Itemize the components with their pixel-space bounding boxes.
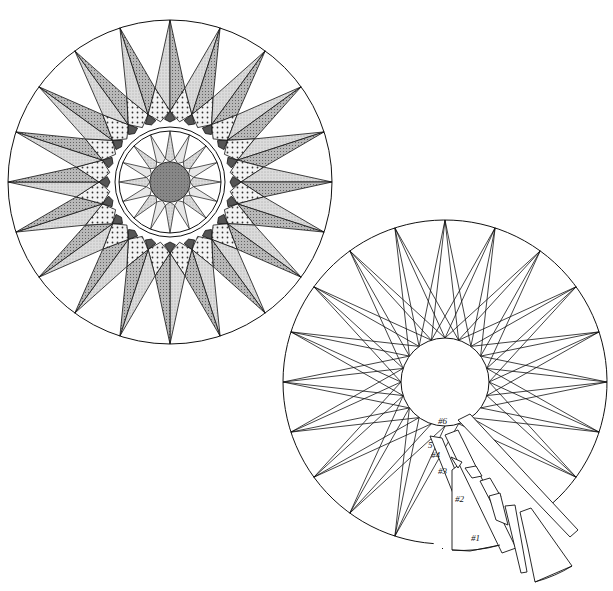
center-circle (401, 338, 489, 426)
piece-label: #6 (438, 416, 448, 426)
piecing-diagram (283, 220, 607, 544)
piece-label: 5 (428, 440, 433, 450)
piece-label: #1 (471, 533, 480, 543)
quilt-pattern-diagram: #65#4#3#2#1 (0, 0, 613, 591)
piece-label: #4 (431, 450, 441, 460)
piece-label: #3 (438, 466, 448, 476)
piece-label: #2 (455, 494, 465, 504)
finished-star-block (8, 20, 332, 344)
